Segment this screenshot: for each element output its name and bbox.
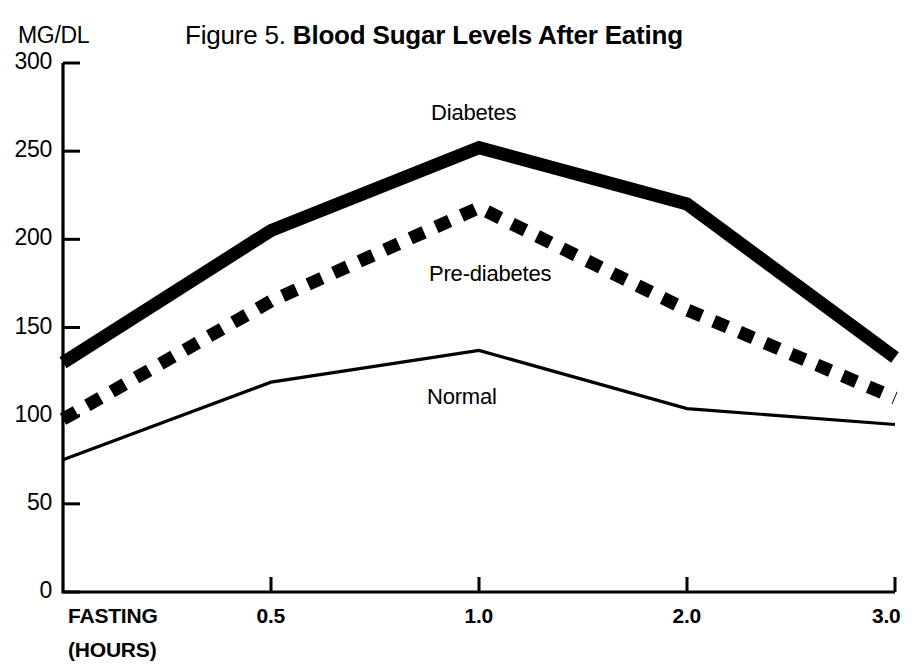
y-axis-tick-label: 0 <box>0 577 52 604</box>
x-axis-unit-label: (HOURS) <box>68 638 156 662</box>
x-axis-tick-label: 3.0 <box>872 604 901 628</box>
y-axis-tick-label: 50 <box>0 489 52 516</box>
y-axis-tick-label: 200 <box>0 224 52 251</box>
figure-container: MG/DL Figure 5. Blood Sugar Levels After… <box>0 0 921 668</box>
x-axis-tick-label: FASTING <box>68 604 158 628</box>
series-label-normal: Normal <box>424 384 500 410</box>
series-label-prediabetes: Pre-diabetes <box>426 261 554 287</box>
x-axis-tick-label: 1.0 <box>465 604 494 628</box>
series-label-diabetes: Diabetes <box>428 100 519 126</box>
series-line-diabetes <box>63 148 895 363</box>
x-axis-tick-label: 0.5 <box>257 604 286 628</box>
y-axis-tick-label: 100 <box>0 401 52 428</box>
y-axis-tick-label: 300 <box>0 48 52 75</box>
y-axis-tick-label: 150 <box>0 313 52 340</box>
x-axis-tick-label: 2.0 <box>673 604 702 628</box>
y-axis-tick-label: 250 <box>0 136 52 163</box>
